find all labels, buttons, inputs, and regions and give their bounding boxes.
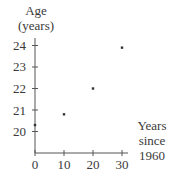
data-points <box>34 46 123 126</box>
data-point <box>121 46 123 48</box>
data-point <box>92 87 94 89</box>
plot-area <box>0 0 173 181</box>
data-point <box>34 124 36 126</box>
data-point <box>63 113 65 115</box>
